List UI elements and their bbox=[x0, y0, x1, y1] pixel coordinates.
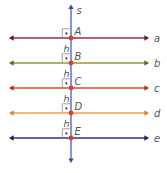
distance-label-h-4: h bbox=[63, 118, 69, 129]
line-label-a: a bbox=[154, 33, 160, 44]
line-label-b: b bbox=[154, 58, 160, 69]
transversal-arrow-down bbox=[68, 158, 73, 163]
line-c-arrow-left bbox=[9, 85, 14, 90]
line-d-arrow-left bbox=[9, 110, 14, 115]
transversal-arrow-up bbox=[68, 5, 73, 10]
point-dot-E bbox=[69, 136, 74, 141]
angle-mark-dot-C bbox=[65, 82, 67, 84]
transversal-label-s: s bbox=[77, 5, 82, 16]
point-label-A: A bbox=[74, 26, 82, 37]
line-a-arrow-right bbox=[144, 35, 149, 40]
point-dot-D bbox=[69, 111, 74, 116]
distance-label-h-2: h bbox=[63, 68, 69, 79]
line-e-arrow-right bbox=[144, 135, 149, 140]
line-label-c: c bbox=[154, 83, 160, 94]
line-label-d: d bbox=[154, 108, 161, 119]
line-c-arrow-right bbox=[144, 85, 149, 90]
line-a-arrow-left bbox=[9, 35, 14, 40]
point-dot-A bbox=[69, 36, 74, 41]
point-dot-C bbox=[69, 86, 74, 91]
distance-label-h-3: h bbox=[63, 93, 69, 104]
distance-label-h-1: h bbox=[63, 43, 69, 54]
point-label-E: E bbox=[75, 126, 82, 137]
geometry-figure: saAbBhcChdDheEh bbox=[0, 0, 167, 173]
line-b-arrow-left bbox=[9, 60, 14, 65]
angle-mark-dot-A bbox=[65, 32, 67, 34]
line-b-arrow-right bbox=[144, 60, 149, 65]
angle-mark-dot-D bbox=[65, 107, 67, 109]
point-label-D: D bbox=[75, 101, 83, 112]
angle-mark-dot-B bbox=[65, 57, 67, 59]
line-e-arrow-left bbox=[9, 135, 14, 140]
point-label-B: B bbox=[75, 51, 82, 62]
line-d-arrow-right bbox=[144, 110, 149, 115]
parallel-lines-with-transversal-diagram: saAbBhcChdDheEh bbox=[0, 0, 167, 173]
point-dot-B bbox=[69, 61, 74, 66]
angle-mark-dot-E bbox=[65, 132, 67, 134]
line-label-e: e bbox=[154, 133, 160, 144]
point-label-C: C bbox=[75, 76, 82, 87]
